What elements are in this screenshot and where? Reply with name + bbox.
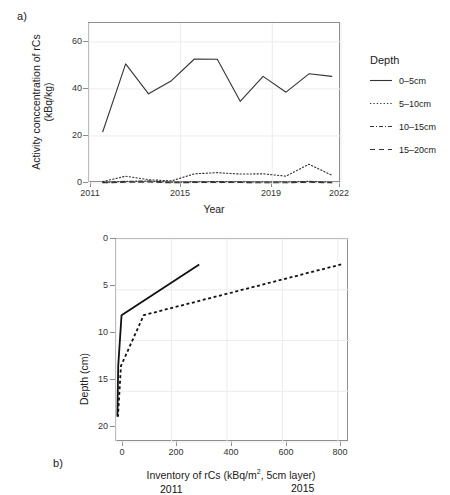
panel-b-x-axis-title-main: Inventory of rCs (kBq/m [146,469,256,481]
legend-key-dashed-icon [370,144,392,155]
panel-b-plot-area [115,238,348,441]
panel-a-y-tickmark-0 [83,182,88,183]
panel-b-y-tick-10: 10 [90,327,108,337]
panel-a-y-axis-title: Activity conccentration of rCs (kBq/kg) [30,22,54,182]
panel-b-y-tick-0: 0 [90,233,108,243]
legend-key-solid-icon [370,75,392,86]
panel-a-y-axis-title-line2: (kBq/kg) [42,22,54,182]
panel-b-series-canvas [116,239,349,442]
panel-a-y-tick-0: 0 [64,177,82,187]
legend-label-0-5cm: 0–5cm [399,76,426,86]
legend-label-10-15cm: 10–15cm [399,122,436,132]
legend-key-dashdot-icon [370,121,392,132]
panel-a-y-axis-title-line1: Activity conccentration of rCs [30,22,42,182]
panel-b-x-tick-600: 600 [278,447,293,457]
panel-b-y-tick-20: 20 [90,421,108,431]
legend-label-15-20cm: 15–20cm [399,145,436,155]
panel-b-x-tick-800: 800 [332,447,347,457]
panel-a-letter: a) [17,10,27,22]
legend-key-dotted-icon [370,98,392,109]
panel-a-x-tick-2015: 2015 [170,188,190,198]
legend-title: Depth [370,54,448,66]
panel-b-letter: b) [53,457,63,469]
panel-b-x-tick-0: 0 [119,447,124,457]
legend-item-10-15cm[interactable]: 10–15cm [370,121,448,132]
legend-label-5-10cm: 5–10cm [399,99,431,109]
panel-a-plot-area [88,22,340,182]
panel-b-y-tick-5: 5 [90,280,108,290]
panel-a-x-tick-2022: 2022 [329,188,349,198]
panel-b-x-axis-title: Inventory of rCs (kBq/m2, 5cm layer) [146,468,315,481]
panel-b-x-tick-200: 200 [168,447,183,457]
panel-b-y-axis-title: Depth (cm) [78,353,90,405]
depth-legend: Depth 0–5cm 5–10cm [370,54,448,167]
panel-a: a) Activity conccentration of rCs (kBq/k… [0,0,450,225]
panel-a-series-canvas [89,23,341,183]
panel-b-annotation-2015: 2015 [291,482,314,494]
panel-b: b) Depth (cm) Inventory of rCs (kBq/m2, … [0,225,450,491]
panel-b-x-axis-title-tail: , 5cm layer) [261,469,316,481]
panel-a-y-tick-60: 60 [64,36,82,46]
legend-item-0-5cm[interactable]: 0–5cm [370,75,448,86]
panel-b-annotation-2011: 2011 [160,483,183,495]
legend-item-15-20cm[interactable]: 15–20cm [370,144,448,155]
panel-a-x-tick-2019: 2019 [261,188,281,198]
panel-b-x-tick-400: 400 [223,447,238,457]
panel-a-y-tick-40: 40 [64,83,82,93]
panel-a-x-axis-title: Year [203,203,224,215]
panel-a-y-tick-20: 20 [64,130,82,140]
panel-a-x-tick-2011: 2011 [80,188,99,198]
legend-item-5-10cm[interactable]: 5–10cm [370,98,448,109]
panel-b-y-tick-15: 15 [90,374,108,384]
